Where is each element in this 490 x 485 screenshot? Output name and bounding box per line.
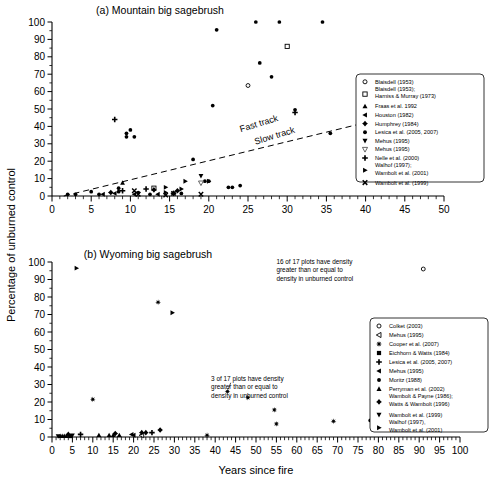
data-point: [179, 192, 183, 196]
triangle-right-marker: [164, 185, 168, 190]
data-point: [97, 192, 101, 196]
series-0: [421, 267, 425, 271]
x-tick-label: 5: [88, 204, 94, 215]
data-point: [129, 128, 133, 132]
data-point: [198, 181, 203, 186]
y-axis-label: Percentage of unburned control: [5, 168, 17, 322]
triangle-up-marker: [97, 433, 102, 437]
y-tick-label: 100: [28, 17, 45, 28]
legend-label: Lesica et al. (2005, 2007): [375, 129, 438, 135]
filled-circle-marker: [211, 104, 215, 108]
legend-label: Moritz (1988): [389, 377, 422, 383]
y-tick-label: 90: [34, 274, 46, 285]
x-tick-label: 65: [312, 445, 324, 456]
data-point: [238, 184, 242, 188]
data-point: [421, 267, 425, 271]
x-tick-label: 30: [169, 445, 181, 456]
plus-marker: [112, 117, 117, 122]
legend-label: Mehus (1995): [375, 146, 410, 152]
x-tick-label: 20: [203, 204, 215, 215]
data-point: [191, 158, 195, 162]
x-tick-label: 15: [164, 204, 176, 215]
data-point: [227, 185, 231, 189]
legend-label: Houston (1982): [375, 112, 414, 118]
panel-a-reference-line: [64, 116, 393, 196]
x-tick-label: 90: [414, 445, 426, 456]
x-tick-label: 45: [230, 445, 242, 456]
triangle-down-filled-marker: [199, 174, 204, 178]
data-point: [273, 421, 279, 427]
filled-circle-marker: [117, 186, 121, 190]
y-tick-label: 50: [34, 104, 46, 115]
open-circle-marker: [377, 324, 381, 328]
y-tick-label: 70: [34, 309, 46, 320]
y-tick-label: 0: [39, 191, 45, 202]
data-point: [271, 407, 277, 413]
filled-circle-marker: [321, 20, 325, 24]
data-point: [183, 179, 187, 184]
y-tick-label: 10: [34, 173, 46, 184]
note-mid-line: density in unburned control: [211, 392, 288, 400]
x-tick-label: 25: [148, 445, 160, 456]
y-tick-label: 20: [34, 156, 46, 167]
data-point: [117, 186, 121, 190]
legend-label: Perryman et al. (2002): [389, 386, 445, 392]
filled-circle-marker: [328, 131, 332, 135]
series-7: [198, 181, 203, 186]
legend-label: Walhof (1997);: [375, 162, 412, 168]
filled-square-marker: [377, 351, 381, 355]
series-0: [246, 84, 250, 88]
x-tick-label: 50: [438, 204, 450, 215]
star-burst-marker: [271, 407, 277, 413]
plus-marker: [292, 110, 297, 115]
x-tick-label: 45: [399, 204, 411, 215]
data-point: [75, 266, 79, 271]
y-tick-label: 70: [34, 69, 46, 80]
data-point: [199, 174, 204, 178]
filled-circle-marker: [254, 20, 258, 24]
filled-circle-marker: [148, 192, 152, 196]
legend-label: Mehus (1995): [375, 138, 410, 144]
legend-marker: [363, 130, 367, 134]
data-point: [211, 104, 215, 108]
data-point: [120, 188, 125, 193]
filled-circle-marker: [377, 378, 381, 382]
figure-root: (a) Mountain big sagebrush01020304050607…: [0, 0, 490, 485]
panel-b-notes: 16 of 17 plots have densitygreater than …: [211, 258, 353, 400]
legend-label: Wambolt et al. (1999): [389, 412, 442, 418]
legend-label: Wambolt & Payne (1986);: [389, 393, 453, 399]
panel-a: (a) Mountain big sagebrush01020304050607…: [28, 4, 484, 215]
data-point: [143, 186, 148, 191]
legend-label: Colket (2003): [389, 323, 423, 329]
data-point: [328, 131, 332, 135]
diamond-plus-marker: [108, 190, 114, 196]
legend-label: Blaisdell (1953);: [375, 86, 416, 92]
filled-circle-marker: [97, 192, 101, 196]
data-point: [125, 135, 129, 139]
plus-marker: [149, 430, 154, 435]
series-5: [66, 20, 332, 196]
data-point: [277, 20, 281, 24]
data-point: [292, 110, 297, 115]
x-tick-label: 40: [360, 204, 372, 215]
data-point: [149, 430, 154, 435]
x-tick-label: 25: [242, 204, 254, 215]
plus-marker: [143, 186, 148, 191]
data-point: [170, 310, 174, 315]
plus-marker: [78, 432, 83, 437]
filled-circle-marker: [179, 192, 183, 196]
triangle-right-marker: [179, 187, 183, 192]
triangle-right-marker: [183, 179, 187, 184]
legend-label: Eichhorn & Watts (1984): [389, 350, 450, 356]
data-point: [112, 117, 117, 122]
data-point: [204, 432, 210, 438]
y-tick-label: 80: [34, 292, 46, 303]
triangle-right-marker: [170, 310, 174, 315]
triangle-down-open-marker: [198, 181, 203, 186]
data-point: [148, 192, 152, 196]
data-point: [285, 44, 289, 48]
star-burst-marker: [376, 341, 382, 347]
data-point: [78, 432, 83, 437]
legend-label: Humphrey (1984): [375, 121, 419, 127]
y-tick-label: 60: [34, 86, 46, 97]
